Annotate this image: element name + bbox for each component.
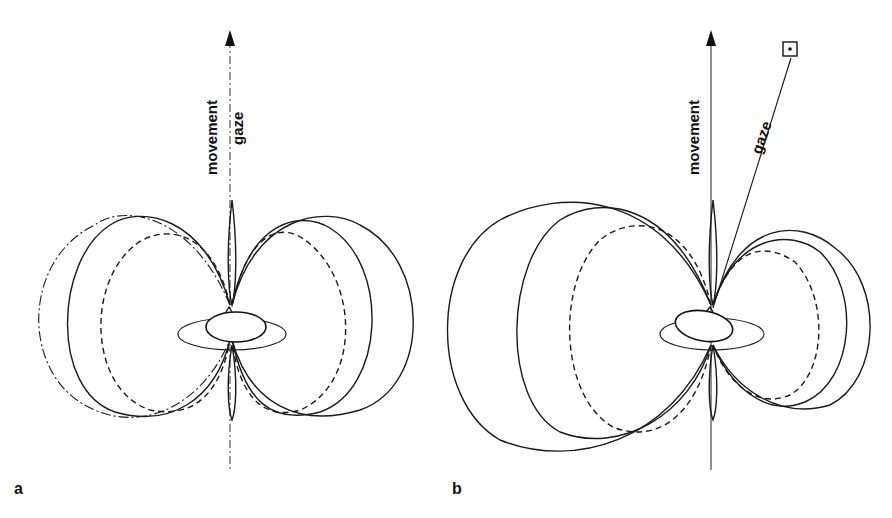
panel-label-a: a — [14, 480, 23, 497]
upper-narrow-lobe — [228, 200, 236, 305]
panel-label-b: b — [452, 480, 462, 497]
panel-a: movement gaze a — [14, 30, 413, 497]
gaze-target-dot — [788, 47, 792, 51]
gaze-label: gaze — [748, 119, 775, 156]
right-lobe-outer — [232, 216, 413, 416]
head-ellipse — [673, 306, 735, 346]
movement-label: movement — [203, 100, 220, 175]
figure: movement gaze a movement gaze — [0, 0, 892, 518]
upper-narrow-lobe — [709, 200, 717, 305]
gaze-line — [713, 58, 791, 308]
panel-b: movement gaze b — [448, 30, 871, 497]
lower-narrow-lobe — [709, 345, 717, 420]
head-ellipse — [206, 312, 266, 342]
gaze-label: gaze — [229, 112, 246, 145]
lower-narrow-lobe — [228, 345, 236, 420]
right-lobe-mid — [713, 240, 847, 407]
left-lobe-outer — [68, 216, 231, 416]
movement-label: movement — [685, 100, 702, 175]
arrowhead-icon — [706, 30, 716, 46]
arrowhead-icon — [225, 30, 235, 46]
nose-mark — [226, 307, 232, 312]
